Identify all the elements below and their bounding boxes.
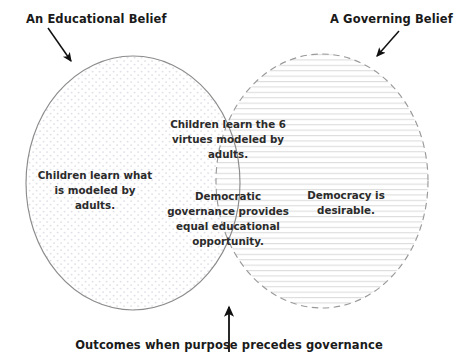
arrow-to-right-circle — [377, 31, 399, 56]
right-set-text: Democracy is desirable. — [292, 188, 400, 218]
label-an-educational-belief: An Educational Belief — [26, 12, 167, 26]
right-circle-fill — [216, 54, 428, 308]
arrow-to-left-circle — [48, 28, 71, 61]
left-set-text: Children learn what is modeled by adults… — [33, 168, 157, 213]
venn-diagram-canvas: An Educational Belief A Governing Belief… — [0, 0, 458, 360]
diagram-caption: Outcomes when purpose precedes governanc… — [0, 338, 458, 352]
label-a-governing-belief: A Governing Belief — [330, 12, 453, 26]
intersection-text-secondary: Democratic governance provides equal edu… — [163, 189, 293, 249]
intersection-text-primary: Children learn the 6 virtues modeled by … — [163, 117, 293, 162]
